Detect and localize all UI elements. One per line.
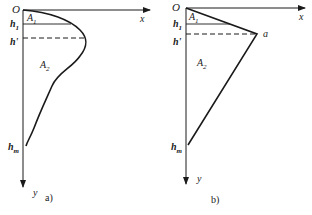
pressure-curve-a <box>23 10 86 146</box>
area1-label-b: A1 <box>188 11 199 25</box>
y-label-a: y <box>32 187 38 198</box>
point-a-label: a <box>263 28 268 39</box>
hm-label-a: hm <box>8 141 20 155</box>
pressure-line-b <box>186 8 257 145</box>
origin-label-a: O <box>12 3 20 15</box>
y-label-b: y <box>196 173 202 184</box>
hprime-label-b: h' <box>173 36 182 47</box>
hm-label-b: hm <box>171 141 183 155</box>
panel-b: O x y a h1 h' hm A1 A2 b) <box>171 1 305 206</box>
panel-a: O x y h1 h' hm A1 A2 a) <box>8 3 150 204</box>
area2-label-b: A2 <box>196 57 207 71</box>
h1-label-b: h1 <box>173 18 182 32</box>
h1-label-a: h1 <box>10 18 19 32</box>
x-label-a: x <box>139 13 145 24</box>
x-label-b: x <box>298 11 304 22</box>
origin-label-b: O <box>172 1 180 13</box>
caption-b: b) <box>211 194 219 206</box>
diagram-canvas: O x y h1 h' hm A1 A2 a) O x y a h1 h' hm… <box>0 0 312 215</box>
hprime-label-a: h' <box>10 36 19 47</box>
area2-label-a: A2 <box>39 59 50 73</box>
caption-a: a) <box>45 192 53 204</box>
